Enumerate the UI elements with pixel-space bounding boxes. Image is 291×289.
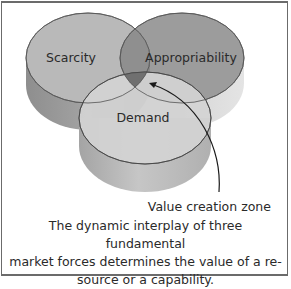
caption-line: source or a capability. [8,271,283,289]
caption-line: market forces determines the value of a … [8,253,283,271]
appropriability-label: Appropriability [145,50,237,65]
demand-label: Demand [116,110,169,125]
demand-cylinder [79,72,211,192]
caption-line: The dynamic interplay of three fundament… [8,217,283,253]
value-creation-zone-label: Value creation zone [148,199,271,214]
figure-caption: The dynamic interplay of three fundament… [8,217,283,289]
scarcity-label: Scarcity [46,50,97,65]
